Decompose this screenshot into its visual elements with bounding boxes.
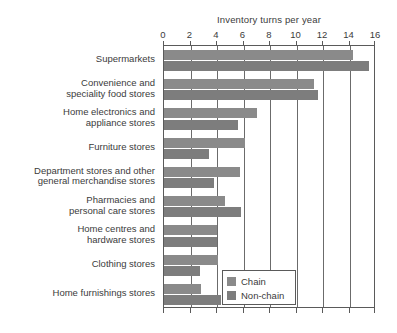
bar-chain: [164, 167, 240, 177]
inventory-turns-bar-chart: Inventory turns per year 0246810121416 S…: [0, 0, 397, 333]
chart-title: Inventory turns per year: [163, 14, 375, 25]
category-label-line: Home furnishings stores: [0, 288, 155, 299]
category-label-line: personal care stores: [0, 206, 155, 217]
category-label-line: appliance stores: [0, 118, 155, 129]
legend-label: Chain: [241, 276, 266, 287]
bar-chain: [164, 108, 257, 118]
legend-swatch-icon: [227, 277, 236, 286]
category-label: Furniture stores: [0, 142, 159, 153]
category-label: Pharmacies andpersonal care stores: [0, 195, 159, 217]
x-tick-mark: [349, 308, 350, 313]
gridline: [350, 46, 351, 307]
category-axis-labels: SupermarketsConvenience andspeciality fo…: [0, 45, 159, 308]
x-axis-tick-marks-bottom: [163, 308, 375, 313]
x-tick-mark: [163, 308, 164, 313]
chart-legend: ChainNon-chain: [222, 270, 296, 305]
x-tick-label: 4: [213, 29, 218, 40]
x-tick-label: 6: [240, 29, 245, 40]
bar-chain: [164, 255, 218, 265]
category-label-line: hardware stores: [0, 235, 155, 246]
legend-swatch-icon: [227, 291, 236, 300]
category-label: Clothing stores: [0, 259, 159, 270]
category-label-line: Furniture stores: [0, 142, 155, 153]
bar-chain: [164, 138, 245, 148]
x-tick-label: 2: [187, 29, 192, 40]
x-tick-label: 16: [370, 29, 381, 40]
x-tick-mark: [322, 308, 323, 313]
category-label: Department stores and othergeneral merch…: [0, 166, 159, 188]
bar-non-chain: [164, 207, 241, 217]
x-tick-mark: [216, 308, 217, 313]
category-label: Supermarkets: [0, 54, 159, 65]
bar-chain: [164, 196, 225, 206]
bar-non-chain: [164, 120, 238, 130]
category-label: Home furnishings stores: [0, 288, 159, 299]
gridline: [323, 46, 324, 307]
x-tick-mark: [374, 308, 375, 313]
bar-non-chain: [164, 266, 200, 276]
legend-label: Non-chain: [241, 290, 284, 301]
bar-chain: [164, 79, 314, 89]
category-label: Home centres andhardware stores: [0, 224, 159, 246]
bar-chain: [164, 225, 217, 235]
category-label-line: general merchandise stores: [0, 176, 155, 187]
category-label-line: Clothing stores: [0, 259, 155, 270]
bar-chain: [164, 284, 201, 294]
bar-non-chain: [164, 178, 214, 188]
x-tick-label: 14: [343, 29, 354, 40]
x-tick-label: 12: [317, 29, 328, 40]
category-label-line: speciality food stores: [0, 89, 155, 100]
legend-item: Non-chain: [227, 288, 291, 302]
x-tick-label: 10: [290, 29, 301, 40]
x-tick-label: 8: [266, 29, 271, 40]
x-tick-label: 0: [160, 29, 165, 40]
plot-area: [163, 45, 375, 308]
x-tick-mark: [243, 308, 244, 313]
x-tick-mark: [296, 308, 297, 313]
legend-item: Chain: [227, 274, 291, 288]
category-label: Home electronics andappliance stores: [0, 107, 159, 129]
bar-non-chain: [164, 237, 217, 247]
x-axis-tick-labels: 0246810121416: [163, 29, 375, 41]
bar-chain: [164, 50, 353, 60]
bar-non-chain: [164, 61, 369, 71]
category-label: Convenience andspeciality food stores: [0, 78, 159, 100]
category-label-line: Supermarkets: [0, 54, 155, 65]
bar-non-chain: [164, 295, 221, 305]
x-tick-mark: [190, 308, 191, 313]
bar-non-chain: [164, 149, 209, 159]
x-tick-mark: [269, 308, 270, 313]
bar-non-chain: [164, 90, 318, 100]
